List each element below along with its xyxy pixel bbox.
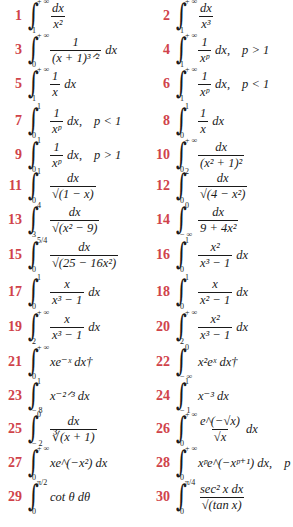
fraction: dx√(4 − x²) xyxy=(198,172,247,201)
numerator: 1 xyxy=(198,107,208,121)
integrand: x⁻³ dx xyxy=(198,388,229,404)
upper-limit: + ∞ xyxy=(185,410,197,419)
exercise-item: 9∫101xᵖdx,p > 1 xyxy=(0,138,146,172)
integral-expression: xx² − 1dx xyxy=(190,278,260,307)
numerator: sec² x dx xyxy=(198,483,245,497)
exercise-number: 12 xyxy=(146,178,176,194)
integral-sign-icon: ∫10 xyxy=(176,104,190,138)
upper-limit: + ∞ xyxy=(37,343,49,352)
exercise-item: 28∫+ ∞0xᵖe^(−xᵖ⁺¹) dx,p > 0 xyxy=(146,446,293,480)
exercise-number: 20 xyxy=(146,319,176,335)
numerator: 1 xyxy=(51,141,61,155)
integral-expression: xe^(−x²) dx xyxy=(42,456,119,471)
exercise-number: 25 xyxy=(0,421,28,437)
fraction: 1xᵖ xyxy=(198,70,211,99)
denominator: x³ − 1 xyxy=(198,327,232,342)
exercise-number: 18 xyxy=(146,284,176,300)
denominator: x³ xyxy=(199,16,212,31)
upper-limit: + ∞ xyxy=(185,308,197,317)
numerator: dx xyxy=(213,141,229,155)
condition: p < 1 xyxy=(94,114,121,129)
exercise-item: 18∫10xx² − 1dx xyxy=(146,275,293,309)
exercise-number: 11 xyxy=(0,178,28,194)
exercise-number: 5 xyxy=(0,76,28,92)
exercise-item: 29∫π/20cot θ dθ xyxy=(0,480,146,514)
fraction: 1xᵖ xyxy=(50,107,63,136)
numerator: dx xyxy=(65,172,81,186)
fraction: dx∛(x + 1) xyxy=(50,415,97,444)
exercise-item: 30∫π/40sec² x dx√(tan x) xyxy=(146,480,293,514)
exercise-number: 13 xyxy=(0,212,28,228)
integral-sign-icon: ∫π/40 xyxy=(176,480,190,514)
exercise-item: 20∫+ ∞2x²x³ − 1dx xyxy=(146,310,293,344)
numerator: 1 xyxy=(71,36,81,50)
exercise-number: 21 xyxy=(0,354,28,370)
upper-limit: + ∞ xyxy=(185,31,197,40)
upper-limit: + ∞ xyxy=(37,308,49,317)
exercise-item: 2∫+ ∞1dxx³ xyxy=(146,0,293,33)
exercise-number: 27 xyxy=(0,455,28,471)
exercise-number: 15 xyxy=(0,247,28,263)
integral-expression: xᵖe^(−xᵖ⁺¹) dx,p > 0 xyxy=(190,455,293,471)
denominator: ∛(x + 1) xyxy=(50,429,97,444)
exercise-number: 29 xyxy=(0,489,28,505)
integrand: dx xyxy=(88,285,100,300)
upper-limit: 5/4 xyxy=(37,236,47,245)
integral-expression: dx√(1 − x) xyxy=(42,172,112,201)
numerator: dx xyxy=(210,206,226,220)
exercise-number: 24 xyxy=(146,388,176,404)
exercise-item: 4∫+ ∞11xᵖdx,p > 1 xyxy=(146,33,293,67)
integral-sign-icon: ∫+ ∞0 xyxy=(28,446,42,480)
integral-sign-icon: ∫10 xyxy=(176,275,190,309)
integral-expression: x²x³ − 1dx xyxy=(190,241,260,270)
upper-limit: + ∞ xyxy=(37,444,49,453)
denominator: (x + 1)³ᐟ² xyxy=(50,50,101,65)
integral-sign-icon: ∫1− 8 xyxy=(28,379,42,413)
integrand: dx xyxy=(236,248,248,263)
integral-sign-icon: ∫10 xyxy=(28,275,42,309)
exercise-item: 10∫+ ∞0dx(x² + 1)² xyxy=(146,138,293,172)
fraction: 1xᵖ xyxy=(50,141,63,170)
denominator: √(4 − x²) xyxy=(198,186,247,201)
upper-limit: + ∞ xyxy=(37,65,49,74)
integral-sign-icon: ∫+ ∞0 xyxy=(176,412,190,446)
condition: p > 1 xyxy=(94,148,121,163)
integrand: dx, xyxy=(67,114,82,129)
fraction: sec² x dx√(tan x) xyxy=(198,483,245,512)
fraction: e^(−√x)√x xyxy=(198,415,242,444)
integral-sign-icon: ∫+ ∞2 xyxy=(28,310,42,344)
exercise-number: 28 xyxy=(146,455,176,471)
upper-limit: + ∞ xyxy=(185,136,197,145)
exercise-item: 23∫1− 8x⁻²ᐟ³ dx xyxy=(0,379,146,413)
fraction: 1(x + 1)³ᐟ² xyxy=(50,36,101,65)
fraction: dx9 + 4x² xyxy=(198,206,238,235)
numerator: 1 xyxy=(51,107,61,121)
numerator: 1 xyxy=(199,70,209,84)
fraction: dx√(1 − x) xyxy=(50,172,96,201)
integral-expression: xe⁻ˣ dx† xyxy=(42,354,104,370)
integral-sign-icon: ∫π/20 xyxy=(28,480,42,514)
exercise-item: 12∫20dx√(4 − x²) xyxy=(146,169,293,203)
denominator: 9 + 4x² xyxy=(198,220,238,235)
numerator: dx xyxy=(67,206,83,220)
exercise-number: 9 xyxy=(0,147,28,163)
integral-expression: xx³ − 1dx xyxy=(42,278,112,307)
exercise-number: 4 xyxy=(146,42,176,58)
upper-limit: + ∞ xyxy=(185,444,197,453)
integrand: dx xyxy=(236,320,248,335)
exercise-item: 1∫+ ∞1dxx² xyxy=(0,0,146,33)
exercise-number: 16 xyxy=(146,247,176,263)
upper-limit: 4 xyxy=(37,201,41,210)
integral-sign-icon: ∫+ ∞1 xyxy=(176,33,190,67)
denominator: xᵖ xyxy=(198,84,211,99)
integrand: xe⁻ˣ dx† xyxy=(50,354,92,370)
upper-limit: π/4 xyxy=(185,478,195,487)
numerator: e^(−√x) xyxy=(198,415,242,429)
denominator: xᵖ xyxy=(50,155,63,170)
exercise-number: 2 xyxy=(146,8,176,24)
fraction: xx² − 1 xyxy=(198,278,232,307)
denominator: x xyxy=(50,84,60,99)
integral-expression: x²eˣ dx† xyxy=(190,355,250,370)
integral-expression: 1xᵖdx,p < 1 xyxy=(42,107,121,136)
numerator: x xyxy=(62,313,72,327)
